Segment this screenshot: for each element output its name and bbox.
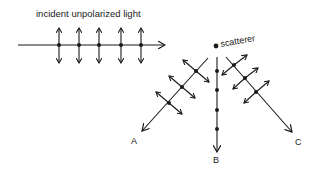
label-b: B [213, 155, 219, 165]
polarization-scattering-diagram: incident unpolarized light scatterer [0, 0, 316, 171]
label-a: A [131, 136, 137, 146]
incident-light-label: incident unpolarized light [36, 8, 141, 19]
beam-a [142, 58, 209, 131]
scatterer-dot [214, 44, 219, 49]
scatterer-label: scatterer [220, 33, 256, 49]
incident-beam [18, 28, 165, 63]
label-c: C [295, 137, 302, 147]
